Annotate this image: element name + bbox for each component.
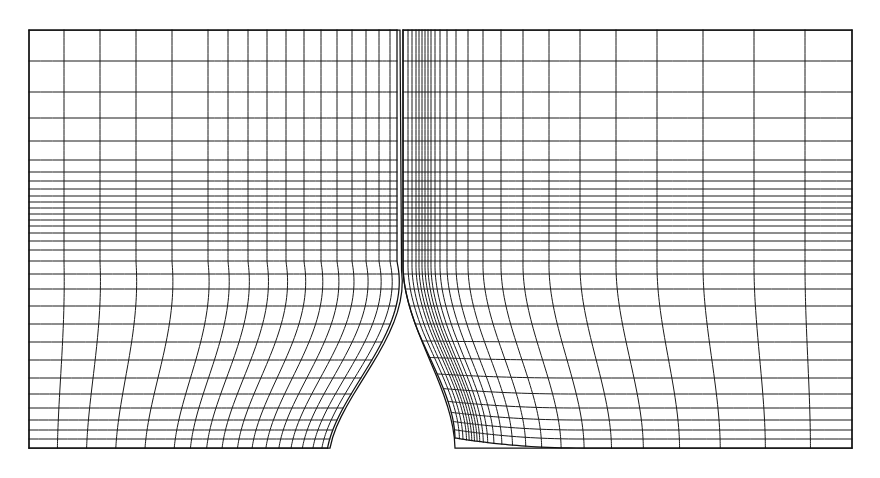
mesh-canvas bbox=[0, 0, 880, 478]
mesh-figure bbox=[0, 0, 880, 478]
